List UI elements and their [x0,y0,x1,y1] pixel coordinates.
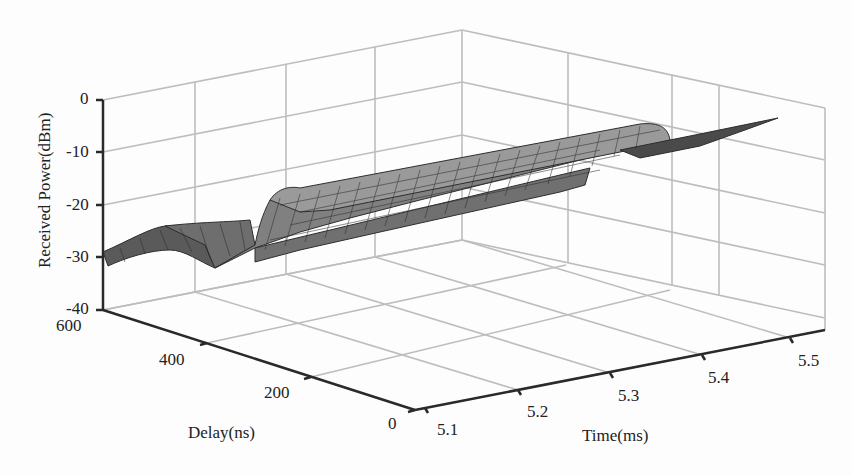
time-tick-label: 5.4 [708,369,729,386]
time-tick-label: 5.5 [798,352,819,369]
z-tick-label: -40 [66,300,89,317]
time-tick-label: 5.2 [527,403,548,420]
surface-mesh [103,118,778,268]
time-tick-label: 5.3 [618,387,639,404]
delay-axis-line [103,310,415,410]
delay-tick-label: 200 [264,384,290,401]
z-tick-label: -30 [66,248,89,265]
plot-canvas [0,0,852,475]
time-axis-title: Time(ms) [582,427,648,444]
delay-tick-label: 400 [159,351,185,368]
delay-tick-label: 600 [56,317,82,334]
z-tick-label: 0 [80,90,89,107]
surface-plot: 0 -10 -20 -30 -40 Received Power(dBm) 60… [0,0,852,475]
delay-axis-title: Delay(ns) [188,424,255,441]
z-axis-title: Received Power(dBm) [36,113,53,268]
time-tick-label: 5.1 [437,421,458,438]
z-tick-label: -10 [66,143,89,160]
delay-tick-label: 0 [388,415,397,432]
z-tick-label: -20 [66,196,89,213]
